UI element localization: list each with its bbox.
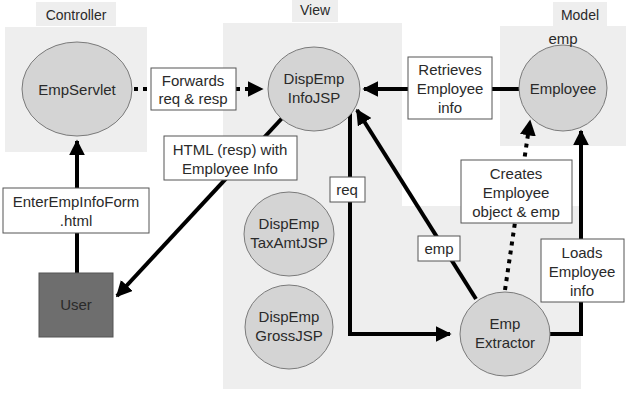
user-node[interactable]: User [39, 273, 113, 337]
emp-label: emp [418, 236, 460, 261]
disp-emp-info-jsp-label-2: InfoJSP [288, 89, 341, 106]
html-resp-label: HTML (resp) with Employee Info [164, 136, 297, 180]
emp-extractor-label-1: Emp [490, 315, 521, 332]
creates-label-1: Creates [490, 165, 543, 182]
emp-label-text: emp [424, 240, 453, 257]
retrieves-label: Retrieves Employee info [408, 57, 492, 119]
retrieves-label-2: Employee [417, 80, 484, 97]
disp-emp-gross-jsp-label-2: GrossJSP [255, 327, 323, 344]
model-panel-label: Model [561, 7, 599, 23]
html-resp-label-1: HTML (resp) with [173, 141, 287, 158]
loads-label-1: Loads [562, 244, 603, 261]
forwards-label-1: Forwards [162, 72, 225, 89]
disp-emp-taxamt-jsp-node[interactable]: DispEmp TaxAmtJSP [244, 192, 334, 276]
emp-extractor-label-2: Extractor [475, 334, 535, 351]
disp-emp-gross-jsp-label-1: DispEmp [259, 308, 320, 325]
forwards-label: Forwards req & resp [151, 68, 236, 110]
html-resp-label-2: Employee Info [182, 160, 278, 177]
emp-extractor-node[interactable]: Emp Extractor [460, 292, 550, 376]
forwards-label-2: req & resp [158, 90, 227, 107]
mvc-diagram: Controller View Model EmpServlet [0, 0, 629, 394]
enter-form-label-2: .html [60, 212, 93, 229]
loads-label: Loads Employee info [541, 239, 624, 302]
creates-label-3: object & emp [472, 203, 560, 220]
req-label: req [330, 177, 365, 202]
disp-emp-info-jsp-label-1: DispEmp [284, 70, 345, 87]
emp-servlet-node[interactable]: EmpServlet [22, 42, 132, 136]
view-panel-label: View [300, 2, 331, 18]
retrieves-label-1: Retrieves [418, 61, 481, 78]
loads-label-3: info [570, 282, 594, 299]
disp-emp-taxamt-jsp-label-2: TaxAmtJSP [250, 234, 328, 251]
employee-instance-label: emp [548, 30, 577, 47]
disp-emp-gross-jsp-node[interactable]: DispEmp GrossJSP [245, 285, 333, 369]
creates-label-2: Employee [483, 184, 550, 201]
enter-form-label-1: EnterEmpInfoForm [13, 193, 140, 210]
disp-emp-info-jsp-node[interactable]: DispEmp InfoJSP [268, 47, 360, 131]
user-label: User [60, 296, 92, 313]
req-label-text: req [336, 181, 358, 198]
creates-label: Creates Employee object & emp [461, 160, 572, 223]
loads-label-2: Employee [549, 263, 616, 280]
enter-form-label: EnterEmpInfoForm .html [3, 188, 149, 233]
employee-label: Employee [530, 80, 597, 97]
emp-servlet-label: EmpServlet [38, 81, 116, 98]
controller-panel-label: Controller [46, 7, 107, 23]
disp-emp-taxamt-jsp-label-1: DispEmp [259, 215, 320, 232]
retrieves-label-3: info [438, 99, 462, 116]
